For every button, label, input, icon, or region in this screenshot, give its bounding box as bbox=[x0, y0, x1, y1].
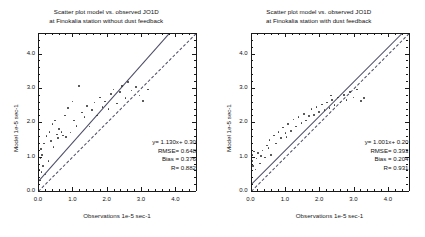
x-minor-tick bbox=[52, 189, 53, 191]
y-minor-tick bbox=[251, 143, 253, 144]
y-minor-tick-right bbox=[194, 102, 196, 103]
panel-left-rmse: RMSE= 0.648 bbox=[104, 147, 196, 156]
x-major-tick bbox=[388, 187, 389, 191]
x-major-tick-top bbox=[107, 33, 108, 37]
y-major-tick bbox=[251, 191, 255, 192]
panel-left-r: R= 0.882 bbox=[104, 164, 196, 173]
y-tick-label: 0.0 bbox=[232, 187, 248, 193]
y-tick-label: 4.0 bbox=[232, 50, 248, 56]
scatter-point bbox=[72, 101, 74, 103]
scatter-point bbox=[257, 152, 259, 154]
scatter-point bbox=[326, 102, 328, 104]
x-minor-tick-top bbox=[65, 33, 66, 35]
x-major-tick bbox=[175, 187, 176, 191]
x-major-tick-top bbox=[141, 33, 142, 37]
y-major-tick bbox=[38, 88, 42, 89]
x-minor-tick bbox=[162, 189, 163, 191]
x-minor-tick-top bbox=[271, 33, 272, 35]
x-minor-tick-top bbox=[59, 33, 60, 35]
x-major-tick bbox=[141, 187, 142, 191]
panel-right-title-line2: at Finokalia station with dust feedback bbox=[213, 16, 425, 25]
scatter-point bbox=[73, 120, 75, 122]
y-minor-tick-right bbox=[406, 129, 408, 130]
scatter-point bbox=[76, 125, 78, 127]
x-minor-tick-top bbox=[93, 33, 94, 35]
x-minor-tick bbox=[264, 189, 265, 191]
panel-right-rmse: RMSE= 0.393 bbox=[317, 147, 409, 156]
scatter-point bbox=[363, 97, 365, 99]
x-tick-label: 1.0 bbox=[277, 196, 293, 202]
y-minor-tick bbox=[38, 47, 40, 48]
y-minor-tick bbox=[251, 184, 253, 185]
x-minor-tick bbox=[182, 189, 183, 191]
y-minor-tick bbox=[251, 109, 253, 110]
x-minor-tick-top bbox=[148, 33, 149, 35]
x-tick-label: 4.0 bbox=[167, 196, 183, 202]
x-minor-tick-top bbox=[169, 33, 170, 35]
scatter-point bbox=[280, 137, 282, 139]
axis-line bbox=[251, 33, 409, 34]
y-tick-label: 2.0 bbox=[232, 118, 248, 124]
y-major-tick bbox=[38, 191, 42, 192]
x-minor-tick bbox=[347, 189, 348, 191]
scatter-point bbox=[251, 160, 253, 162]
panel-left-equation: y= 1.130x+ 0.30 bbox=[104, 138, 196, 147]
scatter-point bbox=[264, 157, 266, 159]
y-minor-tick-right bbox=[194, 60, 196, 61]
y-minor-tick bbox=[38, 143, 40, 144]
y-minor-tick-right bbox=[406, 47, 408, 48]
x-minor-tick-top bbox=[347, 33, 348, 35]
x-minor-tick-top bbox=[182, 33, 183, 35]
scatter-point bbox=[305, 120, 307, 122]
scatter-point bbox=[269, 139, 271, 141]
scatter-point bbox=[81, 112, 83, 114]
x-minor-tick-top bbox=[312, 33, 313, 35]
scatter-point bbox=[331, 99, 333, 101]
y-minor-tick bbox=[251, 74, 253, 75]
x-minor-tick bbox=[333, 189, 334, 191]
x-minor-tick-top bbox=[402, 33, 403, 35]
panel-left-stats: y= 1.130x+ 0.30 RMSE= 0.648 Bias = 0.376… bbox=[104, 138, 196, 172]
scatter-point bbox=[119, 91, 121, 93]
y-minor-tick bbox=[251, 164, 253, 165]
x-minor-tick-top bbox=[374, 33, 375, 35]
x-minor-tick-top bbox=[134, 33, 135, 35]
x-minor-tick bbox=[326, 189, 327, 191]
y-major-tick-right bbox=[192, 191, 196, 192]
y-minor-tick bbox=[38, 150, 40, 151]
y-minor-tick-right bbox=[406, 95, 408, 96]
y-major-tick-right bbox=[405, 122, 409, 123]
y-minor-tick bbox=[38, 81, 40, 82]
panel-left-y-axis-title: Model 1e-5 sec-1 bbox=[12, 104, 19, 152]
panel-right-r: R= 0.931 bbox=[317, 164, 409, 173]
y-minor-tick bbox=[251, 95, 253, 96]
x-tick-label: 0.0 bbox=[243, 196, 259, 202]
y-tick-label: 2.0 bbox=[19, 118, 35, 124]
y-major-tick-right bbox=[405, 191, 409, 192]
x-minor-tick bbox=[360, 189, 361, 191]
y-minor-tick bbox=[251, 60, 253, 61]
x-minor-tick bbox=[278, 189, 279, 191]
y-minor-tick-right bbox=[194, 95, 196, 96]
y-minor-tick bbox=[251, 47, 253, 48]
y-minor-tick bbox=[251, 102, 253, 103]
scatter-point bbox=[253, 151, 255, 153]
scatter-point bbox=[41, 154, 43, 156]
panel-left-x-axis-title: Observations 1e-5 sec-1 bbox=[38, 212, 196, 219]
x-tick-label: 1.0 bbox=[64, 196, 80, 202]
scatter-point bbox=[94, 102, 96, 104]
scatter-point bbox=[266, 145, 268, 147]
scatter-point bbox=[42, 165, 44, 167]
scatter-point bbox=[142, 100, 144, 102]
x-minor-tick bbox=[367, 189, 368, 191]
x-minor-tick bbox=[299, 189, 300, 191]
y-minor-tick bbox=[38, 74, 40, 75]
y-minor-tick-right bbox=[194, 74, 196, 75]
y-minor-tick-right bbox=[406, 60, 408, 61]
y-minor-tick-right bbox=[194, 81, 196, 82]
y-minor-tick bbox=[251, 115, 253, 116]
y-minor-tick-right bbox=[194, 47, 196, 48]
y-minor-tick-right bbox=[406, 109, 408, 110]
scatter-point bbox=[282, 127, 284, 129]
x-major-tick-top bbox=[72, 33, 73, 37]
